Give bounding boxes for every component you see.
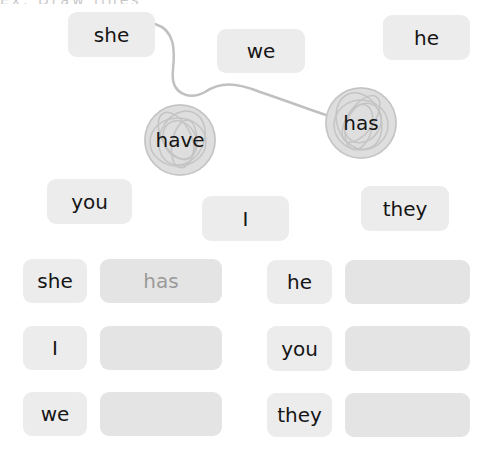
pronoun-label: they (277, 403, 322, 427)
word-tile-she[interactable]: she (68, 12, 155, 57)
answer-slot-she[interactable]: has (100, 259, 222, 303)
pronoun-tile-we: we (23, 392, 87, 436)
circled-word-has[interactable]: has (323, 85, 399, 161)
word-tile-he[interactable]: he (383, 15, 470, 60)
pronoun-label: I (52, 336, 58, 360)
answer-slot-i[interactable] (100, 326, 222, 370)
word-tile-you[interactable]: you (47, 179, 132, 224)
cutoff-instruction-text: Ex. Draw lines (0, 0, 210, 4)
pronoun-label: you (281, 337, 318, 361)
answer-slot-they[interactable] (345, 393, 470, 437)
pronoun-label: he (287, 270, 312, 294)
word-tile-we[interactable]: we (217, 29, 305, 73)
circled-word-have[interactable]: have (142, 102, 218, 178)
word-tile-they[interactable]: they (361, 186, 449, 231)
pronoun-tile-she: she (23, 259, 87, 303)
word-tile-label: we (247, 39, 276, 63)
answer-slot-he[interactable] (345, 260, 470, 304)
word-tile-i[interactable]: I (202, 196, 289, 241)
circled-word-label: have (155, 128, 204, 152)
answer-slot-we[interactable] (100, 392, 222, 436)
pronoun-label: she (37, 269, 72, 293)
circled-word-label: has (343, 111, 378, 135)
word-tile-label: I (243, 207, 249, 231)
pronoun-tile-i: I (23, 326, 87, 370)
answer-slot-you[interactable] (345, 326, 470, 371)
pronoun-tile-he: he (267, 260, 332, 304)
pronoun-label: we (41, 402, 70, 426)
word-tile-label: you (71, 190, 108, 214)
word-tile-label: they (383, 197, 428, 221)
pronoun-tile-they: they (267, 393, 332, 437)
pronoun-tile-you: you (267, 326, 332, 371)
answer-value: has (143, 269, 178, 293)
word-tile-label: he (414, 26, 439, 50)
word-tile-label: she (94, 23, 129, 47)
